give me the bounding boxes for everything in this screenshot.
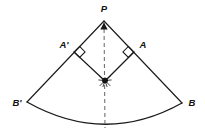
label-A-prime: A' bbox=[58, 39, 69, 50]
label-B-prime: B' bbox=[12, 97, 22, 108]
label-A: A bbox=[139, 39, 147, 50]
geometry-figure: P A A' B B' bbox=[0, 0, 205, 139]
right-angle-mark-at-A-prime bbox=[74, 46, 85, 57]
label-P: P bbox=[101, 3, 108, 14]
radius-P-to-B bbox=[104, 21, 182, 103]
radius-P-to-B-prime bbox=[27, 21, 104, 102]
right-angle-mark-at-A bbox=[123, 46, 134, 57]
diagram-canvas: P A A' B B' bbox=[0, 0, 205, 139]
axis-of-symmetry-dashed-line bbox=[104, 22, 105, 128]
label-B: B bbox=[189, 97, 196, 108]
